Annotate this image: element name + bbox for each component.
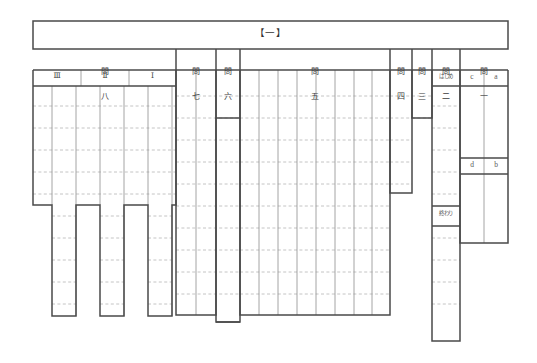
column-dividers (52, 70, 484, 316)
answer-sheet-grid (0, 0, 537, 363)
dotted-row-rules (33, 96, 460, 304)
heavy-outlines (33, 21, 508, 341)
answer-sheet: 【一】 問 八 Ⅲ Ⅱ Ⅰ 問 七 問 六 問 五 問 四 (0, 0, 537, 363)
